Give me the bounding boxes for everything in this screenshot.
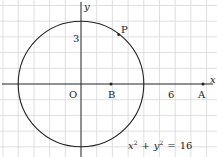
grid — [0, 0, 217, 157]
point-a-marker — [202, 83, 205, 86]
y-axis-label: y — [83, 1, 90, 12]
tick-label-6: 6 — [168, 89, 174, 100]
point-a-label: A — [197, 89, 206, 100]
tick-label-3: 3 — [73, 33, 79, 44]
point-b-marker — [110, 83, 113, 86]
point-p-marker — [117, 33, 120, 36]
origin-label: O — [69, 89, 77, 100]
circle-equation: x2+y2=16 — [128, 139, 192, 151]
coordinate-diagram: y x O 3 6 P B A x2+y2=16 — [0, 0, 217, 157]
point-p-label: P — [121, 24, 128, 35]
point-b-label: B — [108, 89, 115, 100]
x-axis-label: x — [210, 74, 216, 85]
